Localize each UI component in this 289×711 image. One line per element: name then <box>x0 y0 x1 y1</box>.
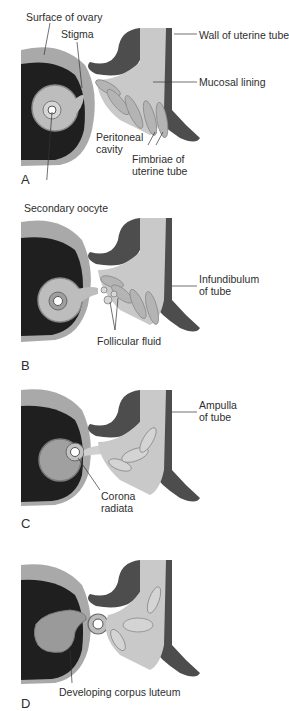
label-fimbriae-line1: Fimbriae of <box>132 153 185 165</box>
panel-c: Ampulla of tube Corona radiata C <box>0 370 289 520</box>
label-peritoneal-line1: Peritoneal <box>96 131 143 143</box>
label-wall-of-uterine-tube: Wall of uterine tube <box>199 29 289 41</box>
label-fimbriae-line2: uterine tube <box>132 165 187 177</box>
label-developing-corpus-luteum: Developing corpus luteum <box>59 686 180 698</box>
label-infundibulum-line2: of tube <box>199 285 231 297</box>
panel-a: Surface of ovary Stigma Wall of uterine … <box>0 0 289 180</box>
label-secondary-oocyte: Secondary oocyte <box>24 202 108 214</box>
tube-wall-curl <box>88 218 140 265</box>
panel-letter-a: A <box>21 172 30 187</box>
label-fimbriae: Fimbriae of uterine tube <box>132 153 187 177</box>
label-ampulla: Ampulla of tube <box>199 399 237 423</box>
oocyte <box>71 448 80 457</box>
panel-letter-c: C <box>21 516 30 531</box>
label-stigma: Stigma <box>61 28 94 40</box>
oocyte <box>93 619 103 629</box>
label-peritoneal-cavity: Peritoneal cavity <box>96 131 143 155</box>
label-ampulla-line2: of tube <box>199 411 231 423</box>
panel-letter-d: D <box>21 696 30 711</box>
label-infundibulum: Infundibulum of tube <box>199 273 259 297</box>
label-corona-radiata: Corona radiata <box>101 490 135 514</box>
label-corona-line1: Corona <box>101 490 135 502</box>
label-surface-of-ovary: Surface of ovary <box>26 11 102 23</box>
label-follicular-fluid: Follicular fluid <box>97 335 161 347</box>
label-peritoneal-line2: cavity <box>96 143 123 155</box>
panel-b: Secondary oocyte Infundibulum of tube Fo… <box>0 190 289 355</box>
label-ampulla-line1: Ampulla <box>199 399 237 411</box>
label-infundibulum-line1: Infundibulum <box>199 273 259 285</box>
tube-wall-curl <box>88 560 140 607</box>
label-corona-line2: radiata <box>101 502 133 514</box>
panel-d: Developing corpus luteum D <box>0 540 289 711</box>
panel-c-illustration <box>0 370 289 520</box>
label-mucosal-lining: Mucosal lining <box>199 76 266 88</box>
